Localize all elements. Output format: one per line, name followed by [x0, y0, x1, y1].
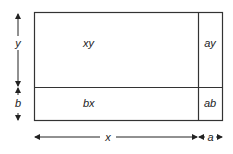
x-dimension-label: x	[104, 131, 111, 143]
y-dimension-label: y	[14, 37, 22, 49]
b-dimension-arrow: b	[15, 88, 21, 120]
region-ay-label: ay	[204, 37, 217, 49]
b-dimension-label: b	[15, 97, 21, 109]
region-ab-label: ab	[204, 97, 216, 109]
a-dimension-arrow: a	[199, 131, 222, 143]
x-dimension-arrow: x	[35, 131, 197, 143]
outer-rectangle	[35, 13, 223, 121]
a-dimension-label: a	[207, 131, 213, 143]
region-xy-label: xy	[82, 37, 96, 49]
area-model-diagram: xy ay bx ab y b x a	[0, 0, 233, 154]
y-dimension-arrow: y	[14, 14, 22, 86]
region-bx-label: bx	[83, 97, 95, 109]
